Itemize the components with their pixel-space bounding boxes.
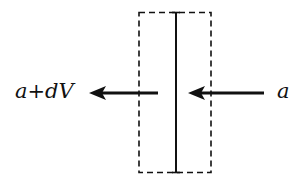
inflow-label: a bbox=[277, 81, 290, 102]
outflow-label: a+dV bbox=[15, 81, 74, 102]
plate-line bbox=[172, 12, 180, 173]
outflow-arrow-icon bbox=[89, 86, 158, 100]
inflow-arrow-icon bbox=[188, 86, 264, 100]
